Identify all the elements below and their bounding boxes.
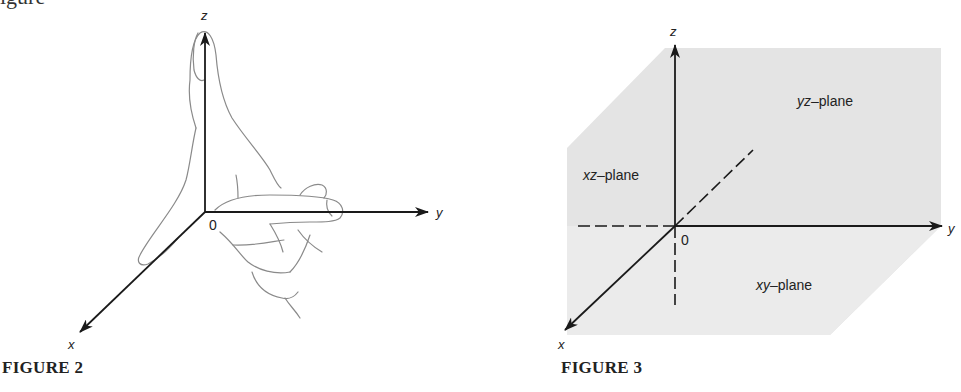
- yz-plane-var: yz: [796, 93, 811, 109]
- yz-plane-label: yz–plane: [796, 93, 853, 109]
- figure-3: z y x 0 yz–plane xz–plane xy–plane: [557, 24, 956, 352]
- xz-plane-var: xz: [582, 167, 597, 183]
- figures-canvas: z y x 0 z y x 0 yz–plane xz–plane xy–pla…: [0, 0, 961, 392]
- xy-plane-suffix: –plane: [770, 277, 812, 293]
- y-axis-label: y: [435, 205, 444, 220]
- origin-label: 0: [681, 232, 689, 248]
- figure-3-caption: FIGURE 3: [561, 358, 642, 378]
- x-axis-label: x: [557, 337, 565, 352]
- xy-plane-label: xy–plane: [755, 277, 812, 293]
- right-hand-illustration: [138, 32, 342, 318]
- figure-2-caption: FIGURE 2: [2, 358, 83, 378]
- z-axis-label: z: [200, 8, 208, 23]
- yz-plane-suffix: –plane: [811, 93, 853, 109]
- x-axis: [80, 212, 205, 332]
- xy-plane-var: xy: [755, 277, 771, 293]
- y-axis-label: y: [947, 221, 956, 236]
- figure-2-axes: [80, 33, 428, 332]
- z-axis-label: z: [669, 24, 677, 39]
- xz-plane-suffix: –plane: [597, 167, 639, 183]
- origin-label: 0: [209, 217, 217, 233]
- xy-plane-shading: [567, 226, 941, 335]
- figure-2: z y x 0: [67, 8, 444, 352]
- x-axis-label: x: [67, 337, 75, 352]
- xz-plane-label: xz–plane: [582, 167, 639, 183]
